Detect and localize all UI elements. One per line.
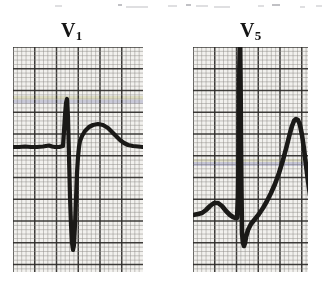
scan-artifact-mark [168,5,177,7]
scan-artifact-mark [55,5,62,7]
scan-artifact-mark [196,5,208,7]
scan-artifact-mark [300,6,305,8]
lead-label-v5: V5 [240,20,261,43]
scan-artifact-mark [272,4,280,6]
ecg-trace-v5 [193,47,308,272]
ecg-trace-v1 [13,47,143,272]
ecg-panel-v5 [193,47,308,272]
ecg-panel-v1 [13,47,143,272]
scan-artifact-mark [186,4,191,6]
lead-label-v1: V1 [61,20,82,43]
lead-letter: V [240,19,255,41]
lead-number: 5 [255,28,262,43]
scan-artifact-mark [126,6,148,8]
lead-number: 1 [76,28,83,43]
ecg-waveform [13,99,143,250]
scan-artifact-mark [214,6,230,8]
ecg-waveform [193,47,308,246]
scan-artifact-mark [118,4,122,6]
scan-artifact-strip [0,0,325,12]
scan-artifact-mark [316,5,322,7]
scan-artifact-mark [258,5,264,7]
lead-letter: V [61,19,76,41]
